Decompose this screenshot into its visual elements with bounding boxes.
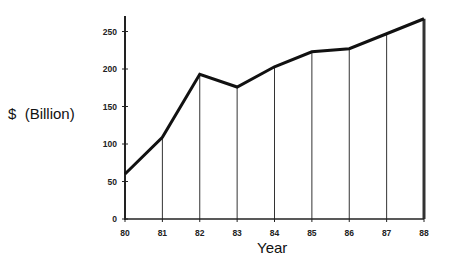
x-tick-label: 87 [382,228,392,238]
y-tick-label: 150 [103,102,117,112]
x-tick-label: 80 [120,228,130,238]
x-tick-label: 81 [158,228,168,238]
y-tick-label: 0 [112,214,117,224]
x-tick-label: 88 [419,228,429,238]
drop-lines [125,19,424,219]
line-chart: 050100150200250808182838485868788 [0,0,449,272]
x-tick-label: 85 [307,228,317,238]
x-tick-label: 84 [270,228,280,238]
axis-ticks: 050100150200250808182838485868788 [103,27,429,239]
x-tick-label: 86 [345,228,355,238]
y-tick-label: 200 [103,64,117,74]
y-tick-label: 250 [103,27,117,37]
x-tick-label: 83 [232,228,242,238]
y-tick-label: 50 [108,177,118,187]
x-tick-label: 82 [195,228,205,238]
y-tick-label: 100 [103,139,117,149]
